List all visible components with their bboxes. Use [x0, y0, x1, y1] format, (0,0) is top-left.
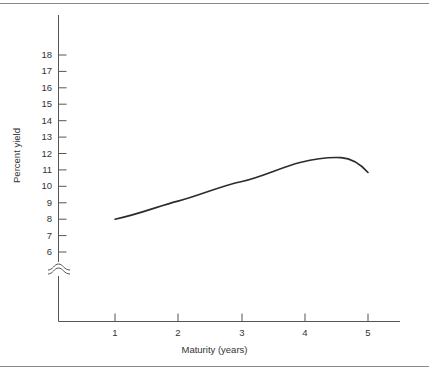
- ytick-label-14: 14: [28, 116, 52, 126]
- ytick-label-13: 13: [28, 132, 52, 142]
- ytick-label-12: 12: [28, 149, 52, 159]
- ytick-label-15: 15: [28, 99, 52, 109]
- y-axis-break-icon: [48, 264, 70, 270]
- ytick-label-10: 10: [28, 182, 52, 192]
- ytick-label-11: 11: [28, 165, 52, 175]
- ytick-label-8: 8: [28, 214, 52, 224]
- ytick-label-18: 18: [28, 50, 52, 60]
- yield-curve-line: [115, 157, 368, 219]
- y-axis-title: Percent yield: [11, 116, 22, 196]
- xtick-label-2: 2: [175, 328, 180, 338]
- ytick-label-17: 17: [28, 67, 52, 77]
- ytick-label-16: 16: [28, 83, 52, 93]
- ytick-label-9: 9: [28, 198, 52, 208]
- xtick-label-1: 1: [112, 328, 117, 338]
- ytick-label-7: 7: [28, 231, 52, 241]
- yield-curve-figure: 18 17 16 15 14 13 12 11 10 9 8 7 6 1 2 3…: [0, 0, 429, 375]
- ytick-label-6: 6: [28, 247, 52, 257]
- x-axis-title: Maturity (years): [0, 344, 429, 355]
- xtick-label-4: 4: [302, 328, 307, 338]
- xtick-label-5: 5: [365, 328, 370, 338]
- x-axis-ticks: [115, 314, 368, 322]
- y-axis-ticks: [59, 55, 67, 252]
- chart-plot-area: [0, 0, 429, 375]
- xtick-label-3: 3: [239, 328, 244, 338]
